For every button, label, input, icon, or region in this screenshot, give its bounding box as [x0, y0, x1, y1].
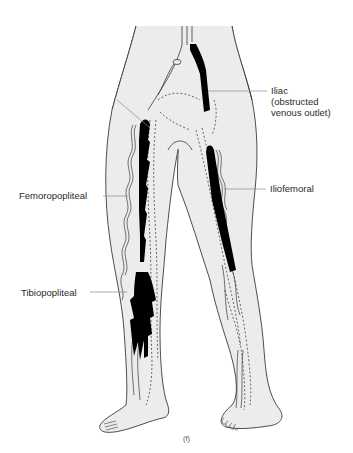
panel-label: (f)	[183, 434, 190, 443]
label-iliac: Iliac (obstructed venous outlet)	[271, 85, 331, 118]
label-iliofemoral: Iliofemoral	[270, 183, 314, 194]
leg-venous-thrombosis-diagram	[0, 0, 353, 453]
label-iliac-line1: Iliac	[271, 85, 331, 96]
label-femoropopliteal: Femoropopliteal	[19, 190, 87, 201]
legs-silhouette	[100, 26, 282, 432]
label-iliac-line2: (obstructed	[271, 96, 331, 107]
label-tibiopopliteal: Tibiopopliteal	[21, 287, 77, 298]
label-iliac-line3: venous outlet)	[271, 107, 331, 118]
